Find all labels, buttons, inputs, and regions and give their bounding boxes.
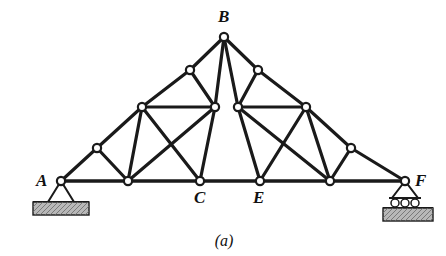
truss-joint-r2 <box>302 103 310 111</box>
truss-member-l2-l3 <box>142 70 190 107</box>
truss-joint-r1 <box>347 144 355 152</box>
truss-members <box>61 37 405 181</box>
truss-member-r3-r2 <box>258 70 306 107</box>
truss-joint-l3 <box>186 66 194 74</box>
truss-joint-lm <box>211 103 219 111</box>
node-label-b: B <box>217 7 229 26</box>
node-labels: ABCEF <box>35 7 427 207</box>
truss-member-l3-lm <box>190 70 215 107</box>
truss-joint-b <box>220 33 228 41</box>
truss-member-r1-d2 <box>330 148 351 181</box>
truss-diagram: ABCEF (a) <box>0 0 446 256</box>
truss-joint-rm <box>234 103 242 111</box>
roller-support-wheel-3 <box>411 199 419 207</box>
truss-joint-l2 <box>138 103 146 111</box>
truss-joint-d2 <box>326 177 334 185</box>
node-label-f: F <box>414 171 427 190</box>
truss-member-b-lm <box>215 37 224 107</box>
node-label-c: C <box>194 188 206 207</box>
roller-support-wheel-2 <box>401 199 409 207</box>
truss-figure: ABCEF (a) <box>0 0 446 256</box>
roller-support-wheel-1 <box>391 199 399 207</box>
truss-member-r3-rm <box>238 70 258 107</box>
truss-member-r2-e <box>260 107 306 181</box>
truss-member-l1-d1 <box>97 148 128 181</box>
truss-member-r1-f <box>351 148 405 181</box>
truss-joint-f <box>401 177 409 185</box>
truss-member-rm-e <box>238 107 260 181</box>
truss-joint-d1 <box>124 177 132 185</box>
truss-joint-r3 <box>254 66 262 74</box>
truss-joint-c <box>196 177 204 185</box>
figure-caption: (a) <box>215 232 234 250</box>
truss-joint-a <box>57 177 65 185</box>
truss-member-l2-c <box>142 107 200 181</box>
truss-member-a-l1 <box>61 148 97 181</box>
truss-joint-l1 <box>93 144 101 152</box>
node-label-a: A <box>35 171 47 190</box>
node-label-e: E <box>252 188 264 207</box>
truss-joint-e <box>256 177 264 185</box>
